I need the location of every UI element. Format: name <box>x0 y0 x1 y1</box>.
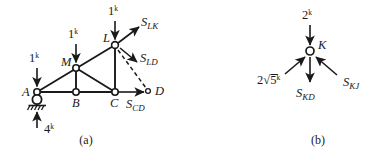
joint-label-K: K <box>317 38 327 52</box>
force-arrow-SLK <box>118 27 139 43</box>
structural-diagram-svg: A B C M L D 1k 1k 1k 4k SLK SLD SCD (a) … <box>0 0 389 154</box>
joint-label-D: D <box>154 84 164 98</box>
joint-K <box>306 47 314 55</box>
support-pin-circle <box>32 95 41 104</box>
force-label-2root5: 2√5k <box>257 73 280 87</box>
reaction-label-A: 4k <box>44 122 54 136</box>
force-label-SCD: SCD <box>126 97 145 113</box>
load-label-K: 2k <box>302 8 312 22</box>
force-arrow-SKJ <box>316 57 337 75</box>
force-label-2root5-text: 2√5k <box>257 73 280 87</box>
force-arrow-SLD <box>120 48 137 62</box>
joint-L <box>112 42 119 49</box>
joint-label-C: C <box>110 96 119 110</box>
load-label-A: 1k <box>29 51 39 65</box>
caption-b: (b) <box>311 133 325 147</box>
joint-M <box>73 65 79 71</box>
load-label-L: 1k <box>108 4 118 18</box>
pin-support-A <box>28 95 47 110</box>
force-arrow-2root5 <box>285 57 305 74</box>
load-label-M: 1k <box>68 27 78 41</box>
joint-B <box>73 89 79 95</box>
truss-joints <box>34 42 151 96</box>
force-label-SLD: SLD <box>140 51 158 67</box>
member-M-C <box>76 68 115 92</box>
panel-b-group: K 2k 2√5k SKD SKJ (b) <box>257 8 360 147</box>
joint-D-cut-marker <box>146 89 151 94</box>
force-label-SLK: SLK <box>141 15 159 31</box>
force-label-SKJ: SKJ <box>343 75 360 91</box>
joint-label-M: M <box>60 55 72 69</box>
caption-a: (a) <box>79 133 92 147</box>
joint-C <box>112 89 118 95</box>
joint-label-L: L <box>102 31 110 45</box>
joint-label-A: A <box>21 85 30 99</box>
figure-root: A B C M L D 1k 1k 1k 4k SLK SLD SCD (a) … <box>0 0 389 154</box>
joint-label-B: B <box>72 96 80 110</box>
force-label-SKD: SKD <box>296 86 315 102</box>
panel-a-group: A B C M L D 1k 1k 1k 4k SLK SLD SCD (a) <box>21 4 164 147</box>
